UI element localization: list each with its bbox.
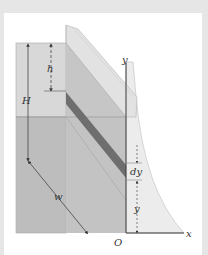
label-x-axis: x (186, 228, 192, 239)
label-H: H (21, 95, 31, 106)
water-top-plane (16, 117, 126, 233)
label-dy: dy (130, 166, 142, 177)
label-w: w (54, 191, 63, 202)
label-y-axis: y (121, 54, 128, 65)
label-y: y (133, 203, 140, 214)
dam-diagram: h H w y dy y O x (0, 0, 208, 255)
label-origin: O (114, 237, 122, 248)
label-h: h (47, 63, 53, 74)
